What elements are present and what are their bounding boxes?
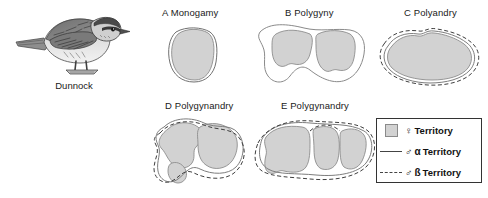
alpha-symbol-icon: α bbox=[415, 146, 421, 157]
diagram-e-polygynandry bbox=[252, 113, 377, 198]
legend-item-alpha-male: ♂αTerritory bbox=[377, 141, 483, 162]
legend-label-beta-male-text: Territory bbox=[423, 167, 461, 178]
diagram-b-polygyny bbox=[252, 20, 372, 99]
dunnock-caption: Dunnock bbox=[36, 80, 112, 91]
legend-label-beta-male: ♂ßTerritory bbox=[405, 167, 461, 178]
legend-label-alpha-male-text: Territory bbox=[423, 146, 461, 157]
female-territory-a1 bbox=[172, 29, 214, 80]
legend-item-beta-male: ♂ßTerritory bbox=[377, 162, 483, 183]
beta-male-line-swatch bbox=[377, 172, 405, 173]
legend-item-female: ♀Territory bbox=[377, 120, 483, 141]
female-territory-b2 bbox=[316, 31, 355, 72]
panel-label-c: C Polyandry bbox=[404, 7, 457, 18]
female-territory-d1 bbox=[159, 123, 202, 168]
diagram-a-monogamy bbox=[160, 22, 240, 96]
female-territory-c1 bbox=[388, 33, 472, 80]
female-territory-e1 bbox=[265, 126, 310, 173]
female-territory-e2 bbox=[313, 127, 339, 170]
legend-label-female: ♀Territory bbox=[405, 125, 453, 136]
legend: ♀Territory ♂αTerritory ♂ßTerritory bbox=[376, 118, 482, 183]
panel-label-a: A Monogamy bbox=[162, 7, 218, 18]
panel-label-e: E Polygynandry bbox=[281, 100, 349, 111]
alpha-male-line-swatch bbox=[377, 151, 405, 152]
legend-label-female-text: Territory bbox=[415, 125, 453, 136]
female-territory-swatch bbox=[377, 124, 405, 137]
panel-label-b: B Polygyny bbox=[285, 7, 334, 18]
diagram-c-polyandry bbox=[372, 20, 484, 99]
dunnock-bird-illustration bbox=[14, 8, 134, 78]
male-symbol-icon: ♂ bbox=[405, 146, 413, 157]
dunnock-mating-systems-figure: Dunnock A Monogamy B Polygyny C Polyandr… bbox=[0, 0, 488, 198]
panel-label-d: D Polygynandry bbox=[165, 100, 233, 111]
female-symbol-icon: ♀ bbox=[405, 125, 413, 136]
female-territory-d2 bbox=[198, 124, 238, 169]
diagram-d-polygynandry bbox=[146, 113, 258, 198]
female-territory-e3 bbox=[340, 129, 366, 169]
female-territory-b1 bbox=[272, 30, 312, 66]
legend-label-alpha-male: ♂αTerritory bbox=[405, 146, 461, 157]
male-symbol-icon-2: ♂ bbox=[405, 167, 413, 178]
beta-symbol-icon: ß bbox=[415, 167, 421, 178]
